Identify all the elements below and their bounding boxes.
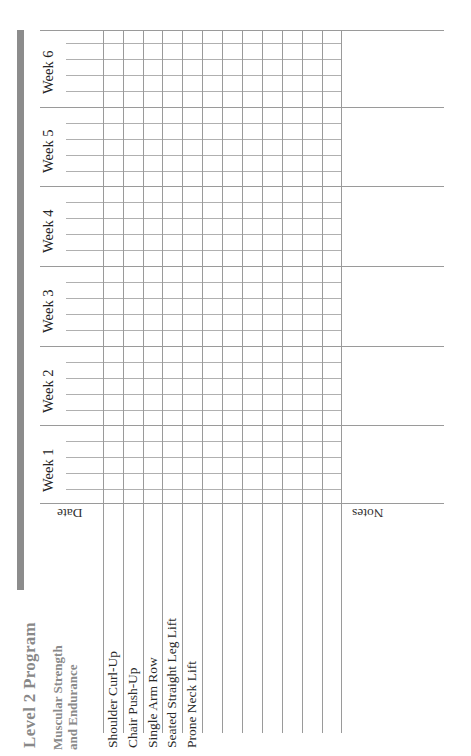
- grid-row-line: [66, 378, 341, 379]
- grid-column-line: [282, 30, 283, 733]
- grid-row-line: [66, 457, 341, 458]
- grid-column-line: [322, 30, 323, 733]
- grid-row-line: [66, 489, 341, 490]
- exercise-label: Shoulder Curl-Up: [105, 651, 121, 748]
- grid-column-line: [302, 30, 303, 733]
- grid-row-line: [66, 202, 341, 203]
- grid-column-line: [222, 30, 223, 733]
- section-heading-line2: and Endurance: [65, 645, 80, 750]
- grid-column-line: [103, 30, 104, 733]
- grid-row-line: [66, 218, 341, 219]
- title-accent-bar: [17, 30, 24, 590]
- grid-row-line: [66, 155, 341, 156]
- grid-row-line: [66, 441, 341, 442]
- week-label: Week 5: [40, 129, 57, 173]
- grid-row-line: [66, 123, 341, 124]
- exercise-label: Prone Neck Lift: [184, 661, 200, 748]
- grid-column-line: [262, 30, 263, 733]
- grid-row-line: [66, 139, 341, 140]
- grid-column-line: [182, 30, 183, 733]
- week-label: Week 4: [40, 209, 57, 253]
- week-label: Week 2: [40, 369, 57, 413]
- grid-row-line: [66, 394, 341, 395]
- grid-row-line: [66, 43, 341, 44]
- grid-row-line: [66, 298, 341, 299]
- grid-column-line: [123, 30, 124, 733]
- grid-row-line: [66, 59, 341, 60]
- grid-row-line: [66, 171, 341, 172]
- grid-column-line: [162, 30, 163, 733]
- date-label: Date: [57, 505, 82, 521]
- grid-column-line: [143, 30, 144, 733]
- section-heading-line1: Muscular Strength: [50, 645, 65, 750]
- grid-row-line: [66, 473, 341, 474]
- grid-row-line: [66, 91, 341, 92]
- week-label: Week 6: [40, 50, 57, 94]
- exercise-label: Single Arm Row: [145, 657, 161, 748]
- grid-row-line: [66, 362, 341, 363]
- grid-row-line: [66, 282, 341, 283]
- exercise-label: Chair Push-Up: [125, 667, 141, 748]
- page-title: Level 2 Program: [20, 622, 40, 748]
- grid-row-line: [66, 75, 341, 76]
- grid-column-line: [341, 30, 342, 733]
- notes-label: Notes: [352, 505, 384, 521]
- section-heading: Muscular Strength and Endurance: [50, 645, 80, 750]
- exercise-label: Seated Straight Leg Lift: [164, 618, 180, 748]
- grid-column-line: [242, 30, 243, 733]
- grid-row-line: [66, 330, 341, 331]
- grid-row-line: [66, 234, 341, 235]
- grid-row-line: [66, 250, 341, 251]
- week-label: Week 3: [40, 289, 57, 333]
- grid-row-line: [66, 410, 341, 411]
- week-label: Week 1: [40, 448, 57, 492]
- grid-row-line: [66, 314, 341, 315]
- grid-column-line: [202, 30, 203, 733]
